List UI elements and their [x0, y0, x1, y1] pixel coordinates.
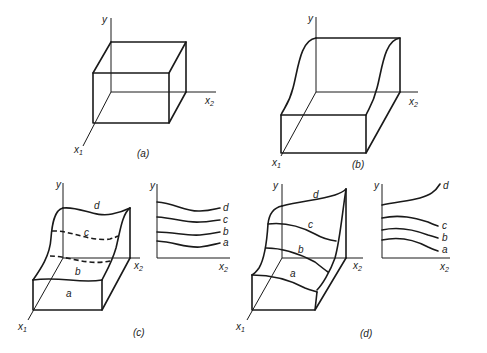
panel-c-projection: y d c b a x2 — [149, 180, 230, 273]
proj-curve-c — [157, 217, 220, 222]
caption-b: (b) — [352, 159, 364, 170]
x2-label: x2 — [218, 261, 228, 273]
x2-label: x2 — [408, 96, 418, 108]
panel-a: y x2 x1 (a) — [73, 14, 216, 159]
y-label: y — [272, 180, 279, 191]
label-d: d — [443, 180, 449, 191]
panel-b: y x2 x1 (b) — [271, 13, 418, 170]
proj-curve-d — [157, 202, 220, 211]
proj-curve-b — [382, 228, 438, 238]
box-front-face — [93, 73, 169, 123]
contour-a — [33, 279, 102, 281]
x2-label: x2 — [352, 260, 362, 272]
caption-a: (a) — [137, 148, 149, 159]
label-a: a — [290, 268, 296, 279]
x1-label: x1 — [17, 321, 27, 333]
label-a: a — [66, 288, 72, 299]
label-d: d — [94, 200, 100, 211]
label-a: a — [223, 237, 229, 248]
panel-d-projection: y d c b a x2 — [373, 180, 450, 273]
contour-c — [268, 223, 336, 241]
box-front-face — [281, 115, 366, 153]
y-label: y — [149, 180, 156, 191]
panel-c: y d c b a x2 x1 (c) — [17, 179, 145, 338]
caption-c: (c) — [133, 327, 145, 338]
x1-label: x1 — [235, 321, 245, 333]
s-curve-right — [366, 38, 400, 115]
surface-back-edges — [316, 38, 400, 92]
proj-curve-b — [157, 232, 220, 235]
x1-axis — [281, 92, 316, 156]
x2-label: x2 — [204, 95, 214, 107]
y-label: y — [307, 13, 314, 24]
label-d: d — [313, 189, 319, 200]
proj-curve-a — [157, 241, 220, 247]
y-label: y — [373, 180, 380, 191]
contour-b — [266, 248, 328, 272]
x2-label: x2 — [439, 261, 449, 273]
label-c: c — [223, 214, 228, 225]
label-b: b — [298, 244, 304, 255]
label-a: a — [442, 244, 448, 255]
box-diagonals — [93, 42, 186, 123]
y-label: y — [55, 179, 62, 190]
base-diagonal — [366, 92, 400, 153]
contour-a — [252, 275, 317, 292]
label-d: d — [223, 202, 229, 213]
surface-left-edge — [252, 206, 282, 275]
caption-d: (d) — [360, 328, 372, 339]
x1-axis — [83, 92, 111, 146]
proj-curve-a — [382, 238, 438, 251]
contour-b — [50, 256, 110, 262]
x2-label: x2 — [133, 260, 143, 272]
label-c: c — [308, 219, 313, 230]
surface-left-edge — [33, 208, 63, 280]
y-label: y — [101, 14, 108, 25]
box-back-edges — [111, 42, 186, 92]
label-b: b — [442, 232, 448, 243]
label-b: b — [223, 226, 229, 237]
response-surface-diagram: y x2 x1 (a) y x2 x1 (b) — [0, 0, 487, 353]
surface-right-edge — [102, 208, 130, 280]
x1-label: x1 — [271, 157, 281, 169]
base-diagonal — [102, 258, 130, 310]
label-c: c — [442, 220, 447, 231]
label-b: b — [75, 266, 81, 277]
proj-curve-c — [382, 216, 438, 226]
s-curve-left — [281, 38, 316, 115]
label-c: c — [84, 227, 89, 238]
proj-curve-d — [382, 184, 440, 205]
panel-d: y d c b a x2 x1 (d) — [235, 180, 372, 339]
x1-label: x1 — [73, 144, 83, 156]
